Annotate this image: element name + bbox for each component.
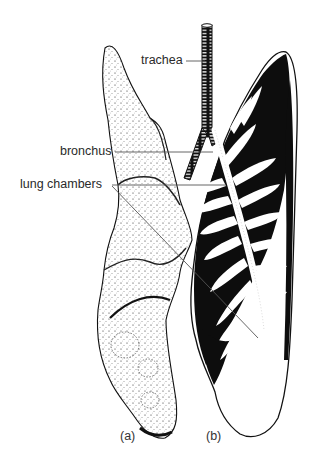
bronchus-label: bronchus (60, 145, 111, 158)
panel-b-label: (b) (206, 430, 221, 443)
panel-a-label: (a) (120, 430, 135, 443)
lung-a-external (98, 46, 193, 438)
trachea-label: trachea (141, 54, 183, 67)
lung-illustration (0, 0, 314, 465)
trachea-tube (184, 24, 218, 180)
lung-diagram: trachea bronchus lung chambers (a) (b) (0, 0, 314, 465)
lung-chambers-label: lung chambers (20, 178, 102, 191)
